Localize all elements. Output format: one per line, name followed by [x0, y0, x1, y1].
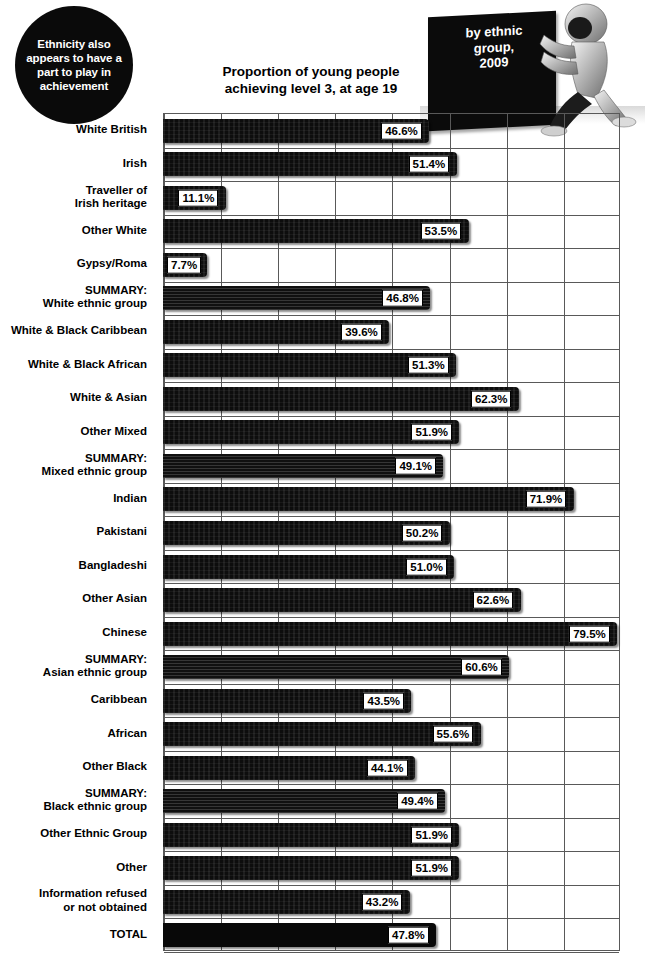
bar-value-label: 62.3% — [471, 391, 512, 408]
bar-value-label: 47.8% — [388, 927, 429, 944]
category-label: Information refused or not obtained — [0, 884, 147, 918]
bar-value-label: 49.1% — [395, 458, 436, 475]
bar-value-label: 51.4% — [409, 156, 450, 173]
bar-row: 71.9% — [163, 487, 644, 511]
category-label: SUMMARY: White ethnic group — [0, 281, 147, 315]
category-label: SUMMARY: Mixed ethnic group — [0, 448, 147, 482]
bar-row: 46.6% — [163, 119, 499, 143]
bar-value-label: 44.1% — [367, 760, 408, 777]
category-label: Chinese — [0, 616, 147, 650]
category-axis-labels: White BritishIrishTraveller of Irish her… — [0, 113, 155, 951]
bar-value-label: 51.9% — [411, 424, 452, 441]
bar-row: 51.9% — [163, 856, 529, 880]
bar-value-label: 43.2% — [362, 894, 403, 911]
bar-value-label: 39.6% — [341, 324, 382, 341]
bar-value-label: 62.6% — [473, 592, 514, 609]
bar-value-label: 43.5% — [363, 693, 404, 710]
chart-title: Proportion of young people achieving lev… — [186, 64, 436, 98]
block-badge-text: by ethnic group, 2009 — [436, 21, 552, 74]
category-label: White British — [0, 113, 147, 147]
category-label: Other Black — [0, 750, 147, 784]
category-label: SUMMARY: Asian ethnic group — [0, 649, 147, 683]
bar-row: 43.5% — [163, 689, 481, 713]
category-label: Bangladeshi — [0, 549, 147, 583]
category-label: TOTAL — [0, 917, 147, 951]
bar-value-label: 51.9% — [411, 827, 452, 844]
bar-row: 51.0% — [163, 555, 524, 579]
bar-row: 49.1% — [163, 454, 513, 478]
bar-row: 46.8% — [163, 286, 500, 310]
category-label: SUMMARY: Black ethnic group — [0, 783, 147, 817]
bar-row: 55.6% — [163, 722, 551, 746]
bar-row: 50.2% — [163, 521, 520, 545]
bar[interactable] — [163, 655, 509, 679]
category-label: Other Asian — [0, 582, 147, 616]
bar-value-label: 49.4% — [397, 793, 438, 810]
bar-row: 62.3% — [163, 387, 589, 411]
bar-value-label: 51.0% — [406, 559, 447, 576]
bar-value-label: 46.8% — [382, 290, 423, 307]
bar-value-label: 55.6% — [433, 726, 474, 743]
bar-row: 11.1% — [163, 186, 296, 210]
bar-value-label: 60.6% — [461, 659, 502, 676]
bar-row: 51.4% — [163, 152, 527, 176]
bar-row: 47.8% — [163, 923, 506, 947]
bar[interactable] — [163, 487, 574, 511]
bar-value-label: 50.2% — [402, 525, 443, 542]
bar-value-label: 51.3% — [408, 357, 449, 374]
bar[interactable] — [163, 622, 617, 646]
bar-row: 51.9% — [163, 420, 529, 444]
category-label: Other White — [0, 214, 147, 248]
bar[interactable] — [163, 588, 521, 612]
category-label: Gypsy/Roma — [0, 247, 147, 281]
bar-row: 60.6% — [163, 655, 579, 679]
category-label: Pakistani — [0, 515, 147, 549]
bar-row: 39.6% — [163, 320, 459, 344]
category-label: Irish — [0, 147, 147, 181]
bar-series: 46.6%51.4%11.1%53.5%7.7%46.8%39.6%51.3%6… — [163, 113, 645, 951]
bar-value-label: 71.9% — [526, 491, 567, 508]
category-label: White & Black Caribbean — [0, 314, 147, 348]
row-gridline — [164, 952, 619, 953]
bar-row: 79.5% — [163, 622, 645, 646]
bar-row: 43.2% — [163, 890, 480, 914]
bar-value-label: 11.1% — [178, 190, 218, 207]
bar-value-label: 79.5% — [569, 626, 610, 643]
callout-text: Ethnicity also appears to have a part to… — [25, 37, 123, 93]
bar-row: 51.3% — [163, 353, 526, 377]
category-label: Indian — [0, 482, 147, 516]
category-label: Traveller of Irish heritage — [0, 180, 147, 214]
bar-value-label: 51.9% — [411, 860, 452, 877]
category-label: African — [0, 716, 147, 750]
category-label: Other Ethnic Group — [0, 817, 147, 851]
bar-row: 51.9% — [163, 823, 529, 847]
bar-value-label: 46.6% — [381, 123, 422, 140]
category-label: Other Mixed — [0, 415, 147, 449]
bar-row: 53.5% — [163, 219, 539, 243]
category-label: White & Black African — [0, 348, 147, 382]
bar-row: 44.1% — [163, 756, 485, 780]
bar-value-label: 53.5% — [421, 223, 462, 240]
bar-row: 62.6% — [163, 588, 591, 612]
callout-bubble: Ethnicity also appears to have a part to… — [15, 6, 133, 124]
category-label: Other — [0, 850, 147, 884]
bar[interactable] — [163, 387, 519, 411]
bar-row: 7.7% — [163, 253, 277, 277]
bar-value-label: 7.7% — [167, 257, 201, 274]
category-label: Caribbean — [0, 683, 147, 717]
bar-row: 49.4% — [163, 789, 515, 813]
category-label: White & Asian — [0, 381, 147, 415]
